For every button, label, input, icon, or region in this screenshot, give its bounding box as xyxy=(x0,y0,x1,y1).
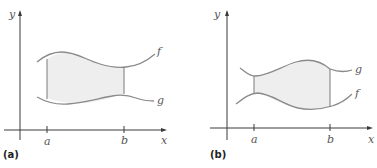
panel-b-curve-label-g: g xyxy=(355,64,362,75)
panel-a-tick-label-b: b xyxy=(121,135,128,146)
panel-a-curve-label-f: f xyxy=(157,46,161,57)
panel-b-shaded-region xyxy=(254,61,330,110)
panel-a-x-label: x xyxy=(161,135,167,146)
panel-a-tick-label-a: a xyxy=(44,136,51,147)
panel-a-caption: (a) xyxy=(3,150,19,160)
panel-b-tick-label-a: a xyxy=(251,134,258,145)
panel-a-y-arrow-icon xyxy=(18,10,22,16)
panel-b-caption: (b) xyxy=(210,150,226,160)
panel-a-x-arrow-icon xyxy=(161,128,167,132)
figure-canvas xyxy=(0,0,377,168)
panel-b-graph xyxy=(210,10,373,140)
panel-b-curve-label-f: f xyxy=(355,88,359,99)
panel-b-y-arrow-icon xyxy=(225,10,229,16)
panel-b-tick-label-b: b xyxy=(327,134,334,145)
panel-b-x-label: x xyxy=(368,134,374,145)
panel-b-y-label: y xyxy=(214,9,220,20)
panel-a-y-label: y xyxy=(9,9,15,20)
panel-a-curve-label-g: g xyxy=(157,95,164,106)
panel-b-x-arrow-icon xyxy=(367,126,373,130)
panel-a-graph xyxy=(4,10,167,140)
